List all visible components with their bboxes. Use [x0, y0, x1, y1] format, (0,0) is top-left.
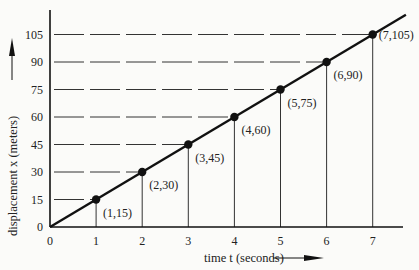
y-tick-label: 15: [31, 193, 43, 207]
x-tick-label: 5: [278, 234, 284, 248]
point-label: (4,60): [241, 123, 270, 137]
point-label: (1,15): [103, 206, 132, 220]
displacement-time-chart: 01234567 0153045607590105 (1,15)(2,30)(3…: [0, 0, 419, 270]
x-axis-label: time t (seconds): [204, 251, 284, 265]
x-tick-label: 0: [47, 234, 53, 248]
data-point: [184, 140, 192, 148]
point-labels: (1,15)(2,30)(3,45)(4,60)(5,75)(6,90)(7,1…: [103, 28, 414, 220]
y-axis-label-group: displacement x (meters): [6, 38, 20, 236]
y-tick-label: 45: [31, 138, 43, 152]
point-label: (3,45): [195, 151, 224, 165]
y-tick-label: 90: [31, 55, 43, 69]
y-axis-arrow-icon: [9, 38, 15, 56]
x-tick-label: 7: [370, 234, 376, 248]
data-point: [138, 168, 146, 176]
data-point: [322, 58, 330, 66]
y-tick-label: 30: [31, 165, 43, 179]
data-point: [369, 30, 377, 38]
x-axis-label-group: time t (seconds): [204, 251, 324, 265]
x-tick-label: 1: [93, 234, 99, 248]
y-tick-label: 0: [37, 220, 43, 234]
x-tick-labels: 01234567: [47, 234, 376, 248]
y-tick-label: 105: [25, 28, 43, 42]
x-axis-arrow-icon: [304, 255, 324, 261]
x-tick-label: 3: [185, 234, 191, 248]
x-tick-label: 4: [231, 234, 237, 248]
point-label: (2,30): [149, 178, 178, 192]
data-point: [230, 113, 238, 121]
data-point: [92, 195, 100, 203]
point-label: (6,90): [334, 68, 363, 82]
y-tick-labels: 0153045607590105: [25, 28, 43, 235]
y-tick-label: 75: [31, 83, 43, 97]
x-tick-label: 6: [324, 234, 330, 248]
x-tick-label: 2: [139, 234, 145, 248]
data-line: [50, 15, 406, 227]
data-point: [276, 85, 284, 93]
y-axis-label: displacement x (meters): [6, 116, 20, 236]
y-tick-label: 60: [31, 110, 43, 124]
point-label: (7,105): [379, 28, 414, 42]
point-label: (5,75): [288, 96, 317, 110]
